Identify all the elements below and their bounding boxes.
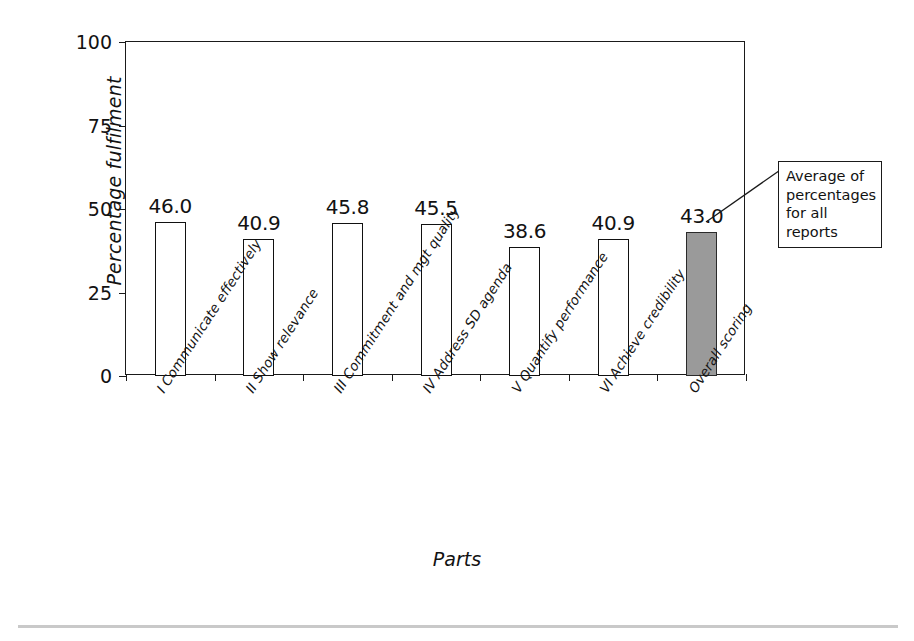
bar-value-label: 40.9: [237, 211, 280, 235]
bar-value-label: 43.0: [680, 204, 723, 228]
annotation-line: Average of: [786, 167, 875, 186]
x-axis-title: Parts: [0, 548, 914, 570]
bar-value-label: 45.8: [326, 195, 369, 219]
y-tick-mark: [119, 293, 126, 294]
y-tick-label: 0: [64, 365, 112, 387]
x-tick-mark: [746, 374, 747, 381]
y-tick-mark: [119, 209, 126, 210]
y-tick-label: 100: [64, 31, 112, 53]
y-tick-label: 75: [64, 115, 112, 137]
annotation-line: for all: [786, 204, 875, 223]
y-tick-mark: [119, 126, 126, 127]
y-tick-label: 25: [64, 282, 112, 304]
x-tick-mark: [480, 374, 481, 381]
bottom-divider: [18, 625, 898, 628]
annotation-line: percentages: [786, 186, 875, 205]
x-tick-mark: [392, 374, 393, 381]
annotation-callout: Average ofpercentagesfor allreports: [778, 161, 882, 248]
y-tick-label: 50: [64, 198, 112, 220]
x-tick-mark: [303, 374, 304, 381]
x-tick-mark: [569, 374, 570, 381]
y-tick-mark: [119, 376, 126, 377]
chart-page: Percentage fulfilment 0255075100 46.040.…: [0, 0, 914, 641]
bar-value-label: 46.0: [149, 194, 192, 218]
y-tick-mark: [119, 42, 126, 43]
bar-value-label: 40.9: [591, 211, 634, 235]
x-tick-mark: [126, 374, 127, 381]
annotation-line: reports: [786, 223, 875, 242]
bar-value-label: 38.6: [503, 219, 546, 243]
x-tick-mark: [215, 374, 216, 381]
x-tick-mark: [657, 374, 658, 381]
